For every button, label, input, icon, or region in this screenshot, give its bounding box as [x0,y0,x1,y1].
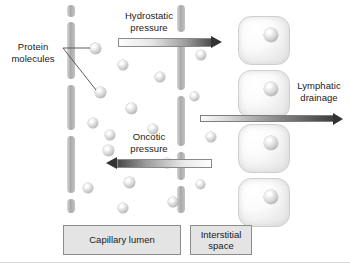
lymphatic-drainage-arrow [200,115,345,122]
arrow-shaft [200,115,335,122]
arrow-head-left-icon [106,157,117,169]
arrow-shaft [118,38,213,47]
lymphatic-drainage-label: Lymphatic drainage [289,80,349,103]
oncotic-pressure-arrow [106,159,212,168]
protein-molecules-label: Protein molecules [2,41,64,64]
arrow-head-right-icon [211,36,222,48]
arrow-shaft [117,159,212,168]
oncotic-pressure-label: Oncotic pressure [113,131,185,154]
interstitial-space-caption: Interstitial space [190,225,252,255]
capillary-exchange-diagram: Protein molecules Hydrostatic pressure O… [0,0,350,267]
hydrostatic-pressure-label: Hydrostatic pressure [107,10,191,33]
hydrostatic-pressure-arrow [118,38,224,47]
capillary-lumen-caption: Capillary lumen [63,225,181,255]
arrow-head-right-icon [333,113,343,125]
scan-artifact-line [0,262,350,263]
